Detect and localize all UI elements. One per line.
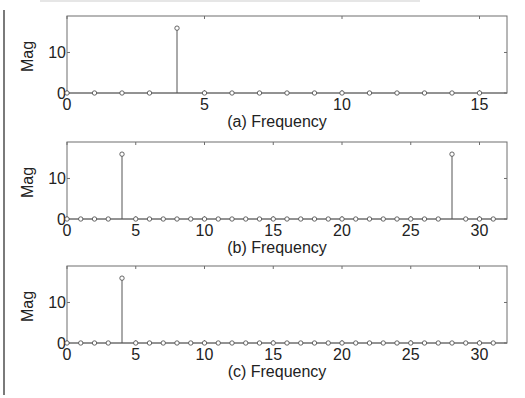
stem-marker: [202, 341, 206, 345]
stem-marker: [285, 91, 289, 95]
x-axis-label: (a) Frequency: [227, 113, 327, 130]
stem-marker: [395, 217, 399, 221]
x-tick-label: 5: [131, 222, 140, 239]
stem-marker: [436, 217, 440, 221]
page-margin-rule: [3, 10, 5, 395]
stem-marker: [299, 341, 303, 345]
stem-marker: [464, 217, 468, 221]
stem-marker: [340, 341, 344, 345]
stem-marker: [216, 341, 220, 345]
stem-marker: [134, 217, 138, 221]
stem-marker: [381, 341, 385, 345]
stem-marker: [450, 152, 454, 156]
stem-marker: [312, 217, 316, 221]
stem-marker: [491, 341, 495, 345]
stem-marker: [161, 341, 165, 345]
stem-marker: [230, 217, 234, 221]
stem-marker: [257, 91, 261, 95]
stem-marker: [464, 341, 468, 345]
stem-marker: [326, 217, 330, 221]
stem-marker: [65, 91, 69, 95]
stem-marker: [147, 341, 151, 345]
stem-marker: [340, 217, 344, 221]
stem-marker: [367, 341, 371, 345]
y-tick-label: 10: [48, 294, 66, 311]
x-tick-label: 25: [402, 222, 420, 239]
stem-marker: [175, 217, 179, 221]
stem-marker: [92, 217, 96, 221]
x-tick-label: 5: [131, 346, 140, 363]
stem-marker: [65, 341, 69, 345]
stem-marker: [354, 341, 358, 345]
stem-marker: [422, 91, 426, 95]
x-tick-label: 30: [471, 346, 489, 363]
stem-marker: [409, 341, 413, 345]
stem-marker: [271, 341, 275, 345]
x-tick-label: 30: [471, 222, 489, 239]
stem-marker: [120, 152, 124, 156]
stem-marker: [147, 91, 151, 95]
stem-marker: [230, 91, 234, 95]
stem-marker: [299, 217, 303, 221]
stem-marker: [175, 341, 179, 345]
x-axis-label: (c) Frequency: [228, 363, 327, 380]
stem-marker: [120, 276, 124, 280]
stem-marker: [326, 341, 330, 345]
stem-marker: [354, 217, 358, 221]
stem-marker: [189, 217, 193, 221]
stem-marker: [92, 91, 96, 95]
panel-b: 051015202530010(b) FrequencyMag: [19, 142, 507, 256]
stem-marker: [340, 91, 344, 95]
stem-marker: [312, 341, 316, 345]
stem-marker: [477, 217, 481, 221]
x-tick-label: 10: [333, 96, 351, 113]
axes-box: [67, 16, 507, 93]
stem-marker: [395, 91, 399, 95]
stem-marker: [436, 341, 440, 345]
stem-marker: [257, 217, 261, 221]
stem-marker: [120, 91, 124, 95]
stem-marker: [422, 341, 426, 345]
stem-marker: [65, 217, 69, 221]
stem-marker: [381, 217, 385, 221]
stem-marker: [285, 341, 289, 345]
stem-marker: [79, 217, 83, 221]
stem-marker: [134, 341, 138, 345]
stem-marker: [271, 217, 275, 221]
stem-marker: [216, 217, 220, 221]
stem-marker: [106, 341, 110, 345]
x-tick-label: 15: [471, 96, 489, 113]
x-axis-label: (b) Frequency: [227, 239, 327, 256]
stem-marker: [189, 341, 193, 345]
x-tick-label: 10: [196, 222, 214, 239]
y-axis-label: Mag: [19, 167, 36, 198]
stem-marker: [312, 91, 316, 95]
stem-marker: [395, 341, 399, 345]
stem-marker: [422, 217, 426, 221]
panel-a: 051015010(a) FrequencyMag: [19, 16, 507, 130]
x-tick-label: 5: [200, 96, 209, 113]
stem-marker: [202, 91, 206, 95]
cropped-text-remnant: [40, 0, 420, 2]
stem-marker: [147, 217, 151, 221]
axes-box: [67, 266, 507, 343]
y-tick-label: 10: [48, 170, 66, 187]
stem-marker: [477, 341, 481, 345]
stem-marker: [244, 341, 248, 345]
stem-marker: [367, 217, 371, 221]
figure: 051015010(a) FrequencyMag051015202530010…: [0, 0, 525, 398]
stem-plots: 051015010(a) FrequencyMag051015202530010…: [0, 0, 525, 398]
x-tick-label: 20: [333, 346, 351, 363]
stem-marker: [450, 91, 454, 95]
stem-marker: [79, 341, 83, 345]
x-tick-label: 10: [196, 346, 214, 363]
x-tick-label: 15: [264, 346, 282, 363]
stem-marker: [257, 341, 261, 345]
y-axis-label: Mag: [19, 41, 36, 72]
stem-marker: [367, 91, 371, 95]
x-tick-label: 20: [333, 222, 351, 239]
x-tick-label: 15: [264, 222, 282, 239]
x-tick-label: 25: [402, 346, 420, 363]
y-tick-label: 10: [48, 44, 66, 61]
axes-box: [67, 142, 507, 219]
